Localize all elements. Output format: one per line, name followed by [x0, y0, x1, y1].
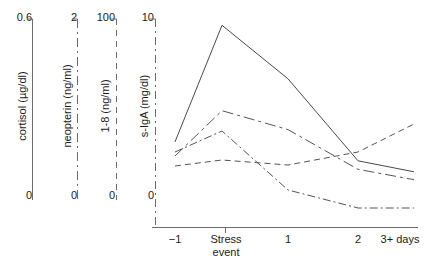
series-line-cortisol	[175, 25, 414, 172]
series-line-i8	[175, 124, 414, 166]
x-tick-label-2: 2	[340, 233, 376, 245]
x-tick-label-1: 1	[270, 233, 306, 245]
series-line-siga	[175, 131, 414, 208]
data-series-group	[175, 25, 414, 208]
x-tick-label-3plus-days: 3+ days	[374, 233, 426, 245]
axis-rules	[27, 19, 156, 225]
multi-axis-line-chart: 0.6 0 cortisol (µg/dl) 2 0 neopterin (ng…	[0, 0, 426, 273]
series-line-neopterin	[175, 111, 414, 180]
x-tick-label-minus1: −1	[157, 233, 193, 245]
x-tick-label-stress-event-line2: event	[198, 246, 254, 258]
x-tick-label-stress-event-line1: Stress	[198, 233, 254, 245]
